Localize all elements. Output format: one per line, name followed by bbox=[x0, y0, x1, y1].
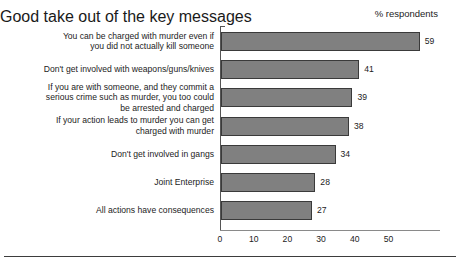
x-tick-label: 40 bbox=[345, 234, 365, 244]
bar bbox=[221, 117, 349, 136]
bar-row: Joint Enterprise28 bbox=[0, 169, 466, 197]
x-tick-label: 50 bbox=[379, 234, 399, 244]
footer-divider bbox=[4, 256, 456, 257]
bar-value-label: 39 bbox=[357, 92, 367, 102]
bar-category-label-line: charged with murder bbox=[6, 126, 214, 136]
bar-value-label: 27 bbox=[317, 205, 327, 215]
bar bbox=[221, 60, 359, 79]
bar bbox=[221, 173, 315, 192]
footer-clipped-text bbox=[26, 259, 446, 266]
bar-category-label: All actions have consequences bbox=[6, 205, 214, 215]
bar-row: All actions have consequences27 bbox=[0, 197, 466, 225]
bar-row: If your action leads to murder you can g… bbox=[0, 113, 466, 141]
bar bbox=[221, 88, 352, 107]
bar-value-label: 34 bbox=[341, 149, 351, 159]
bar-category-label-line: You can be charged with murder even if bbox=[6, 31, 214, 41]
x-tick-label: 30 bbox=[311, 234, 331, 244]
bar-row: Don't get involved in gangs34 bbox=[0, 141, 466, 169]
bar-category-label-line: you did not actually kill someone bbox=[6, 41, 214, 51]
y-axis-top-tick bbox=[220, 26, 225, 27]
bar-category-label: You can be charged with murder even ifyo… bbox=[6, 31, 214, 52]
bar-value-label: 28 bbox=[320, 177, 330, 187]
x-tick-label: 10 bbox=[244, 234, 264, 244]
bar-value-label: 41 bbox=[364, 64, 374, 74]
bar-category-label: If you are with someone, and they commit… bbox=[6, 82, 214, 113]
x-tick-label: 20 bbox=[277, 234, 297, 244]
bar-category-label-line: All actions have consequences bbox=[6, 205, 214, 215]
bar-category-label-line: be arrested and charged bbox=[6, 103, 214, 113]
bar-category-label: Joint Enterprise bbox=[6, 177, 214, 187]
bar-row: Don't get involved with weapons/guns/kni… bbox=[0, 56, 466, 84]
chart-header: Good take out of the key messages % resp… bbox=[0, 8, 466, 24]
bar-category-label-line: Don't get involved with weapons/guns/kni… bbox=[6, 64, 214, 74]
bar-value-label: 38 bbox=[354, 121, 364, 131]
bar-category-label-line: If you are with someone, and they commit… bbox=[6, 82, 214, 92]
bar-chart-plot-area: You can be charged with murder even ifyo… bbox=[0, 26, 466, 234]
bar-category-label-line: serious crime such as murder, you too co… bbox=[6, 92, 214, 102]
bar bbox=[221, 145, 336, 164]
x-axis-line bbox=[220, 230, 440, 231]
bar-category-label: If your action leads to murder you can g… bbox=[6, 115, 214, 136]
bar-category-label-line: If your action leads to murder you can g… bbox=[6, 115, 214, 125]
bar bbox=[221, 201, 312, 220]
bar-category-label: Don't get involved with weapons/guns/kni… bbox=[6, 64, 214, 74]
x-tick-label: 0 bbox=[210, 234, 230, 244]
bar-value-label: 59 bbox=[425, 36, 435, 46]
bar bbox=[221, 32, 420, 51]
bar-category-label-line: Joint Enterprise bbox=[6, 177, 214, 187]
units-label: % respondents bbox=[375, 8, 438, 19]
bar-category-label: Don't get involved in gangs bbox=[6, 149, 214, 159]
bar-row: If you are with someone, and they commit… bbox=[0, 84, 466, 112]
bar-row: You can be charged with murder even ifyo… bbox=[0, 28, 466, 56]
bar-category-label-line: Don't get involved in gangs bbox=[6, 149, 214, 159]
